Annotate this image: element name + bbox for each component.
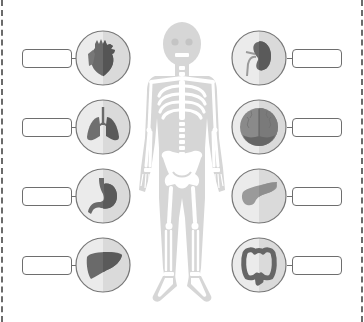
brain-icon bbox=[231, 99, 287, 155]
heart-icon bbox=[75, 30, 131, 86]
stomach-icon bbox=[75, 168, 131, 224]
organ-circle-heart bbox=[75, 30, 131, 86]
label-box-pancreas[interactable] bbox=[292, 187, 342, 206]
organ-circle-lungs bbox=[75, 99, 131, 155]
label-box-lungs[interactable] bbox=[22, 118, 72, 137]
liver-icon bbox=[75, 237, 131, 293]
label-box-heart[interactable] bbox=[22, 49, 72, 68]
organ-circle-brain bbox=[231, 99, 287, 155]
organ-circle-intestine bbox=[231, 237, 287, 293]
intestine-icon bbox=[231, 237, 287, 293]
label-box-intestine[interactable] bbox=[292, 256, 342, 275]
skeleton-figure bbox=[133, 18, 231, 308]
organ-circle-stomach bbox=[75, 168, 131, 224]
label-box-liver[interactable] bbox=[22, 256, 72, 275]
label-box-kidney[interactable] bbox=[292, 49, 342, 68]
label-box-stomach[interactable] bbox=[22, 187, 72, 206]
skeleton-icon bbox=[133, 18, 231, 308]
dashed-border-right bbox=[361, 0, 363, 322]
label-box-brain[interactable] bbox=[292, 118, 342, 137]
organ-circle-liver bbox=[75, 237, 131, 293]
dashed-border-left bbox=[1, 0, 3, 322]
organ-circle-kidney bbox=[231, 30, 287, 86]
lungs-icon bbox=[75, 99, 131, 155]
pancreas-icon bbox=[231, 168, 287, 224]
kidney-icon bbox=[231, 30, 287, 86]
organ-circle-pancreas bbox=[231, 168, 287, 224]
